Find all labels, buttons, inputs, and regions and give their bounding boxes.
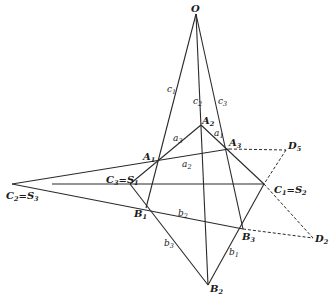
desargues-diagram: O A1 A2 A3 B1 B2 B3 C3=S1 C1=S2 C2=S3 D5… — [0, 0, 336, 296]
label-a3: a3 — [173, 133, 183, 145]
label-c1: c1 — [167, 84, 176, 96]
line-b2 — [12, 184, 243, 229]
dashed-d5-c1 — [264, 150, 286, 184]
line-c2 — [196, 14, 208, 285]
label-c3: c3 — [218, 96, 227, 108]
label-D2: D2 — [314, 233, 329, 246]
line-b3 — [130, 184, 208, 285]
label-O: O — [191, 3, 200, 14]
label-a2: a2 — [182, 159, 192, 171]
label-C1-S2: C1=S2 — [274, 184, 307, 197]
line-a1 — [201, 125, 264, 184]
label-A3: A3 — [228, 137, 242, 150]
line-c1 — [146, 14, 196, 208]
label-B3: B3 — [241, 231, 255, 244]
label-b1: b1 — [229, 247, 239, 259]
label-A2: A2 — [201, 115, 215, 128]
label-b2: b2 — [178, 208, 188, 220]
label-c2: c2 — [193, 96, 202, 108]
label-C2-S3: C2=S3 — [6, 190, 39, 203]
label-D5: D5 — [287, 140, 302, 153]
label-C3-S1: C3=S1 — [106, 174, 139, 187]
label-B2: B2 — [209, 283, 223, 296]
